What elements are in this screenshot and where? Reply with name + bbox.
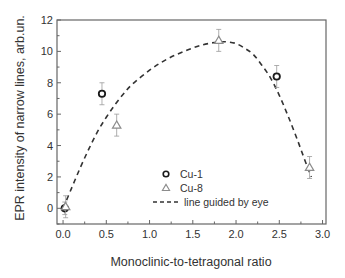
marker-circle-cu1 (99, 91, 105, 97)
marker-triangle-cu8 (305, 163, 313, 170)
legend-label: line guided by eye (184, 196, 269, 208)
x-axis: 0.00.51.01.52.02.53.0 (55, 220, 330, 240)
x-tick-label: 1.5 (185, 228, 200, 240)
y-tick-label: 8 (47, 77, 53, 89)
y-tick-label: 10 (41, 45, 53, 57)
y-tick-label: 4 (47, 140, 53, 152)
y-tick-label: 12 (41, 14, 53, 26)
x-tick-label: 3.0 (315, 228, 330, 240)
x-tick-label: 1.0 (142, 228, 157, 240)
x-tick-label: 0.5 (99, 228, 114, 240)
marker-circle-cu1 (273, 73, 279, 79)
x-tick-label: 2.5 (272, 228, 287, 240)
y-tick-label: 2 (47, 171, 53, 183)
x-axis-title: Monoclinic-to-tetragonal ratio (110, 255, 271, 269)
x-tick-label: 2.0 (228, 228, 243, 240)
marker-triangle-cu8 (112, 121, 120, 128)
legend-triangle-icon (162, 184, 169, 190)
chart: 0.00.51.01.52.02.53.0 024681012 Cu-1Cu-8… (0, 0, 345, 278)
y-axis-title: EPR intensity of narrow lines, arb.un. (13, 15, 27, 221)
legend-label: Cu-8 (180, 182, 203, 194)
legend-circle-icon (163, 171, 169, 177)
y-axis: 024681012 (41, 14, 61, 224)
marker-triangle-cu8 (215, 36, 223, 43)
legend: Cu-1Cu-8line guided by eye (153, 168, 269, 208)
y-tick-label: 0 (47, 202, 53, 214)
x-tick-label: 0.0 (55, 228, 70, 240)
legend-label: Cu-1 (180, 168, 203, 180)
y-tick-label: 6 (47, 108, 53, 120)
